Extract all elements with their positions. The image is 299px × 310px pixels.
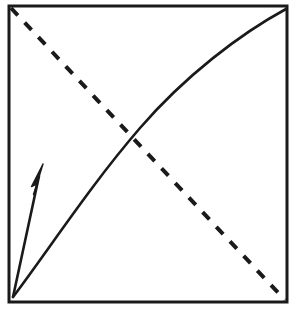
figure-container bbox=[0, 0, 299, 310]
figure-canvas bbox=[0, 0, 299, 310]
